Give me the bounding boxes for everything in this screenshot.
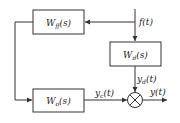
- label-yd: yd(t): [136, 74, 157, 85]
- label-input-f: f(t): [138, 17, 153, 27]
- wo-arg: (s): [59, 96, 71, 106]
- block-wo: Wo(s): [33, 89, 84, 112]
- svg-text:Wd(s): Wd(s): [123, 50, 148, 61]
- block-wd: Wd(s): [110, 42, 161, 66]
- label-yc: yc(t): [94, 88, 115, 99]
- block-wff: Wff(s): [33, 10, 84, 34]
- summing-junction: [128, 93, 143, 108]
- block-diagram: Wff(s) Wd(s) Wo(s) f(t) yd(t) yc(t) y(t): [0, 0, 180, 123]
- wd-arg: (s): [136, 50, 148, 60]
- svg-text:Wo(s): Wo(s): [46, 96, 71, 107]
- wff-arg: (s): [59, 18, 71, 28]
- wff-to-wo-line: [15, 22, 33, 100]
- label-output-y: y(t): [149, 87, 166, 97]
